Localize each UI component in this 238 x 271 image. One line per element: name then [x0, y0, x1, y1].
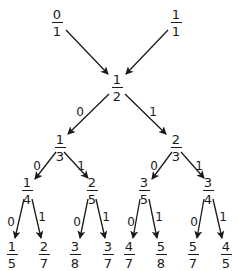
denominator: 7	[98, 257, 118, 270]
edge-label: 0	[5, 216, 17, 228]
fraction-bar	[52, 22, 63, 23]
edge-label: 0	[74, 106, 86, 118]
denominator: 7	[34, 257, 54, 270]
edge-label: 0	[188, 216, 200, 228]
fraction-bar	[70, 254, 81, 255]
denominator: 5	[82, 193, 102, 206]
edge-label: 1	[193, 160, 205, 172]
fraction-bar	[103, 254, 114, 255]
fraction-node: 35	[134, 176, 154, 206]
numerator: 1	[107, 73, 127, 86]
fraction-bar	[87, 190, 98, 191]
numerator: 5	[151, 240, 171, 253]
numerator: 4	[216, 240, 236, 253]
denominator: 8	[151, 257, 171, 270]
numerator: 3	[134, 176, 154, 189]
edge-arrow	[66, 30, 108, 74]
denominator: 3	[50, 150, 70, 163]
denominator: 5	[216, 257, 236, 270]
denominator: 7	[183, 257, 203, 270]
numerator: 2	[166, 133, 186, 146]
edge-arrow	[125, 94, 166, 134]
fraction-bar	[55, 147, 66, 148]
edge-label: 0	[125, 216, 137, 228]
numerator: 1	[166, 8, 186, 21]
numerator: 5	[183, 240, 203, 253]
numerator: 3	[98, 240, 118, 253]
fraction-bar	[124, 254, 135, 255]
fraction-node: 15	[2, 240, 22, 270]
fraction-node: 23	[166, 133, 186, 163]
edge-label: 1	[36, 211, 48, 223]
denominator: 2	[107, 90, 127, 103]
fraction-bar	[7, 254, 18, 255]
fraction-node: 58	[151, 240, 171, 270]
fraction-node: 34	[198, 176, 218, 206]
fraction-bar	[203, 190, 214, 191]
fraction-node: 25	[82, 176, 102, 206]
fraction-bar	[139, 190, 150, 191]
edge-label: 0	[148, 160, 160, 172]
denominator: 4	[17, 193, 37, 206]
fraction-bar	[188, 254, 199, 255]
numerator: 1	[50, 133, 70, 146]
numerator: 2	[34, 240, 54, 253]
edge-label: 0	[71, 216, 83, 228]
fraction-bar	[22, 190, 33, 191]
fraction-bar	[221, 254, 232, 255]
fraction-node: 45	[216, 240, 236, 270]
fraction-node: 13	[50, 133, 70, 163]
fraction-node: 37	[98, 240, 118, 270]
edge-arrow	[126, 30, 168, 74]
fraction-node: 57	[183, 240, 203, 270]
fraction-node: 11	[166, 8, 186, 38]
denominator: 4	[198, 193, 218, 206]
edge-label: 1	[75, 160, 87, 172]
edge-label: 1	[217, 211, 229, 223]
edge-label: 1	[100, 211, 112, 223]
edge-label: 0	[31, 160, 43, 172]
edge-label: 1	[153, 211, 165, 223]
numerator: 2	[82, 176, 102, 189]
denominator: 1	[166, 25, 186, 38]
fraction-node: 27	[34, 240, 54, 270]
numerator: 0	[47, 8, 67, 21]
denominator: 1	[47, 25, 67, 38]
fraction-node: 01	[47, 8, 67, 38]
numerator: 4	[119, 240, 139, 253]
fraction-bar	[39, 254, 50, 255]
numerator: 1	[17, 176, 37, 189]
numerator: 3	[198, 176, 218, 189]
fraction-bar	[171, 22, 182, 23]
denominator: 8	[65, 257, 85, 270]
tree-edges	[0, 0, 238, 271]
fraction-bar	[112, 87, 123, 88]
fraction-node: 47	[119, 240, 139, 270]
denominator: 3	[166, 150, 186, 163]
fraction-tree-diagram: 0111121323142535341527383747585745 01010…	[0, 0, 238, 271]
denominator: 5	[134, 193, 154, 206]
numerator: 1	[2, 240, 22, 253]
denominator: 5	[2, 257, 22, 270]
denominator: 7	[119, 257, 139, 270]
numerator: 3	[65, 240, 85, 253]
fraction-node: 14	[17, 176, 37, 206]
edge-label: 1	[147, 106, 159, 118]
fraction-bar	[156, 254, 167, 255]
fraction-bar	[171, 147, 182, 148]
fraction-node: 38	[65, 240, 85, 270]
fraction-node: 12	[107, 73, 127, 103]
